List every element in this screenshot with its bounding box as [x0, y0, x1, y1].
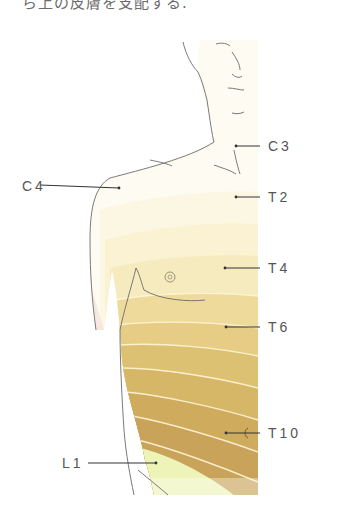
label-c4: C4: [22, 179, 46, 193]
label-l1: L1: [62, 456, 84, 470]
label-t2: T2: [268, 190, 290, 204]
label-t6: T6: [268, 320, 290, 334]
label-t4: T4: [268, 261, 290, 275]
label-c3: C3: [268, 139, 292, 153]
body-fill: [80, 30, 260, 500]
dermatome-figure: [0, 0, 359, 510]
label-t10: T10: [268, 426, 301, 440]
